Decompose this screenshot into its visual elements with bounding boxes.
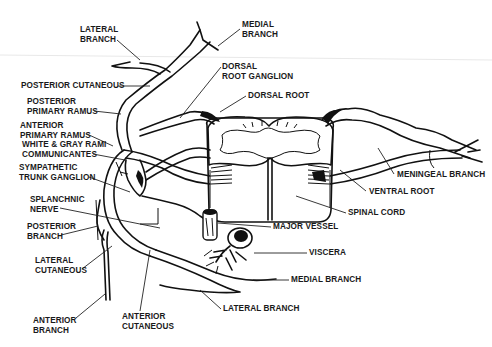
label-splanchnic-nerve: SPLANCHNIC NERVE [30,195,85,215]
label-dorsal-root: DORSAL ROOT [248,91,309,101]
label-major-vessel: MAJOR VESSEL [273,222,338,232]
label-dorsal-root-ganglion: DORSAL ROOT GANGLION [222,62,293,82]
label-posterior-branch: POSTERIOR BRANCH [27,222,76,242]
label-posterior-primary-ramus: POSTERIOR PRIMARY RAMUS [27,97,98,117]
diagram-canvas: LATERAL BRANCH MEDIAL BRANCH DORSAL ROOT… [0,0,492,347]
spinal-cord-shape [207,117,334,222]
label-lateral-branch-bottom: LATERAL BRANCH [223,304,300,314]
label-meningeal-branch: MENINGEAL BRANCH [397,170,485,180]
label-anterior-cutaneous: ANTERIOR CUTANEOUS [122,312,174,332]
label-anterior-primary-ramus: ANTERIOR PRIMARY RAMUS [20,121,91,141]
label-white-gray-rami: WHITE & GRAY RAMI COMMUNICANTES [22,140,107,160]
label-viscera: VISCERA [309,248,346,258]
label-lateral-cutaneous: LATERAL CUTANEOUS [35,256,87,276]
label-medial-branch-top: MEDIAL BRANCH [242,20,278,40]
label-medial-branch-bottom: MEDIAL BRANCH [291,275,361,285]
label-sympathetic-trunk-ganglion: SYMPATHETIC TRUNK GANGLION [19,163,95,183]
label-spinal-cord: SPINAL CORD [348,208,405,218]
posterior-ramus [112,22,218,152]
label-posterior-cutaneous: POSTERIOR CUTANEOUS [21,81,125,91]
label-ventral-root: VENTRAL ROOT [369,187,435,197]
major-vessel-shape [203,209,217,240]
label-anterior-branch: ANTERIOR BRANCH [33,316,77,336]
label-lateral-branch-top: LATERAL BRANCH [80,25,118,45]
